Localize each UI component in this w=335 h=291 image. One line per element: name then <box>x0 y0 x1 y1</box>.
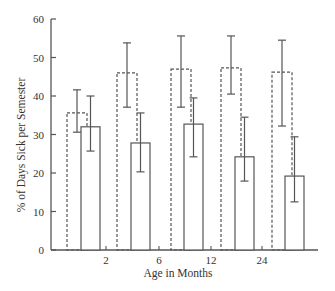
x-axis-title: Age in Months <box>144 267 214 280</box>
error-bar <box>227 36 235 94</box>
x-tick-label: 24 <box>257 254 269 266</box>
y-tick-label: 10 <box>33 206 45 218</box>
y-tick-label: 30 <box>33 129 45 141</box>
bar-solid <box>235 117 254 250</box>
error-bar <box>123 43 131 107</box>
x-tick-label: 12 <box>206 254 217 266</box>
bar-solid <box>184 98 203 250</box>
y-axis-title: % of Days Sick per Semester <box>15 78 28 213</box>
y-tick-label: 50 <box>33 52 45 64</box>
y-tick-label: 60 <box>33 13 45 25</box>
x-tick-label: 2 <box>103 254 109 266</box>
bars <box>67 36 304 250</box>
error-bar <box>177 36 185 107</box>
x-tick-label: 6 <box>156 254 162 266</box>
bar-solid <box>81 96 100 250</box>
y-tick-label: 40 <box>33 90 45 102</box>
error-bar <box>73 90 81 132</box>
error-bar <box>278 40 286 126</box>
bar-solid <box>131 113 150 250</box>
bar-chart: 0102030405060 261224 % of Days Sick per … <box>0 0 335 291</box>
y-axis: 0102030405060 <box>33 13 56 256</box>
y-tick-label: 0 <box>39 244 45 256</box>
y-tick-label: 20 <box>33 167 45 179</box>
bar-solid <box>285 137 304 250</box>
